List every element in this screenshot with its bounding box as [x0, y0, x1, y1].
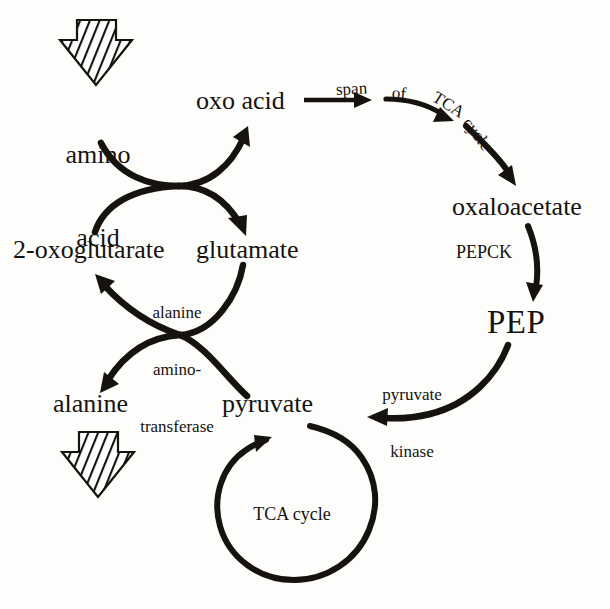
label-alanine-aminotransferase: alanine amino- transferase [140, 265, 214, 474]
label-oxaloacetate: oxaloacetate [452, 194, 582, 221]
label-glutamate: glutamate [196, 237, 299, 264]
label-tca-cycle-loop: TCA cycle [253, 505, 330, 523]
label-amino-acid-line1: amino [66, 141, 131, 169]
alanine-output-block-arrow [62, 432, 134, 497]
label-pyruvate-kinase-line1: pyruvate [382, 385, 441, 404]
label-alanine-aminotransferase-line3: transferase [140, 417, 214, 436]
label-oxo-acid: oxo acid [196, 88, 285, 115]
label-2-oxoglutarate: 2-oxoglutarate [13, 237, 165, 264]
label-span-word-1: of [391, 83, 407, 104]
label-amino-acid: amino acid [66, 86, 131, 306]
label-alanine-aminotransferase-line1: alanine [140, 303, 214, 322]
label-span-word-0: span [335, 78, 367, 100]
label-pyruvate-kinase-line2: kinase [382, 442, 441, 461]
amino-acid-input-block-arrow [60, 20, 132, 85]
label-pyruvate: pyruvate [222, 391, 313, 418]
label-alanine: alanine [53, 391, 128, 418]
label-pep: PEP [487, 306, 545, 340]
label-pyruvate-kinase: pyruvate kinase [382, 347, 441, 499]
tca-cycle-loop [217, 426, 375, 580]
label-alanine-aminotransferase-line2: amino- [140, 360, 214, 379]
label-pepck: PEPCK [456, 242, 512, 262]
arrow-oxaloacetate-to-pep [526, 226, 543, 302]
pathway-diagram-canvas: amino acid oxo acid 2-oxoglutarate gluta… [0, 0, 610, 609]
